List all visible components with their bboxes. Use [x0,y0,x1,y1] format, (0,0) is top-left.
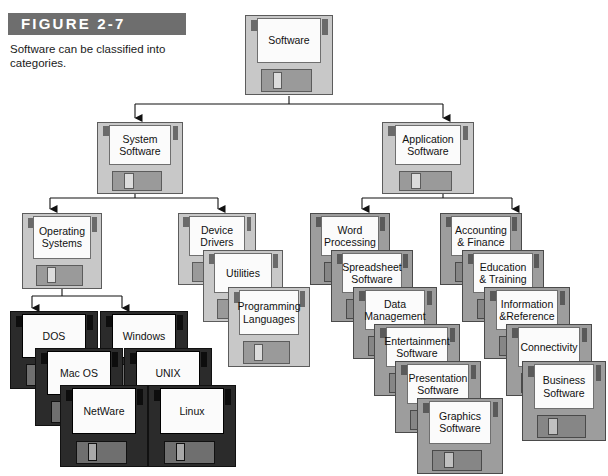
node-business-software[interactable]: Business Software [522,361,606,441]
floppy-notch-icon [560,291,565,305]
figure-canvas: FIGURE 2-7 Software can be classified in… [0,0,608,476]
floppy-notch-icon [534,254,539,268]
floppy-notch-icon [177,315,182,331]
node-label: Operating Systems [33,216,91,259]
floppy-notch-icon [582,328,587,342]
node-label: Graphics Software [429,401,491,444]
floppy-slider-icon [76,441,127,464]
floppy-notch-icon [403,254,408,268]
floppy-notch-icon [87,315,92,331]
floppy-notch-icon [380,217,385,231]
node-system-software[interactable]: System Software [97,122,183,194]
floppy-notch-icon [450,328,455,342]
floppy-slider-icon [432,450,482,471]
floppy-notch-icon [112,352,117,368]
floppy-slider-icon [164,441,215,464]
floppy-notch-icon [173,126,178,140]
floppy-notch-icon [273,254,278,268]
floppy-notch-icon [596,365,601,381]
floppy-slider-icon [537,415,586,437]
floppy-notch-icon [137,389,142,405]
floppy-slider-icon [112,171,162,191]
node-label: NetWare [72,388,135,434]
node-label: Application Software [395,125,461,165]
floppy-notch-icon [92,217,97,232]
floppy-slider-icon [399,171,452,191]
node-label: Programming Languages [239,290,298,335]
floppy-notch-icon [247,217,252,231]
floppy-slider-icon [36,265,82,286]
node-application-software[interactable]: Application Software [382,122,474,194]
floppy-slider-icon [261,69,312,91]
node-programming-languages[interactable]: Programming Languages [228,287,310,367]
node-label: System Software [109,125,171,165]
floppy-notch-icon [471,365,476,379]
node-operating-systems[interactable]: Operating Systems [22,213,102,289]
node-graphics-software[interactable]: Graphics Software [417,398,503,474]
node-netware[interactable]: NetWare [60,385,148,467]
floppy-notch-icon [512,217,517,231]
node-label: Business Software [534,364,594,409]
node-software[interactable]: Software [245,15,333,95]
floppy-notch-icon [427,291,432,305]
floppy-notch-icon [493,402,498,417]
floppy-notch-icon [225,389,230,405]
node-linux[interactable]: Linux [148,385,236,467]
floppy-notch-icon [201,352,206,368]
floppy-notch-icon [463,126,469,140]
node-label: Software [257,18,320,63]
node-label: Linux [160,388,223,434]
floppy-slider-icon [243,341,291,363]
floppy-notch-icon [322,19,327,35]
